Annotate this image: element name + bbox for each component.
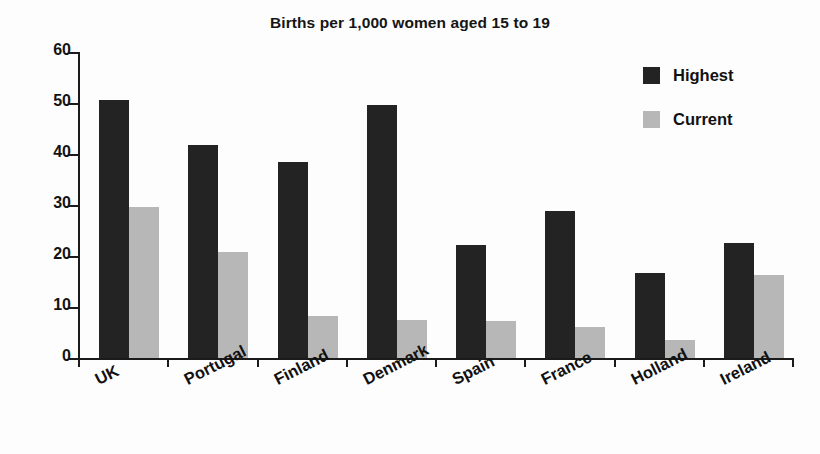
legend-label-highest: Highest xyxy=(673,66,734,85)
chart-page: Births per 1,000 women aged 15 to 19 010… xyxy=(0,0,820,454)
y-tick-label: 20 xyxy=(25,245,71,263)
x-label-uk: UK xyxy=(92,361,122,389)
x-tick-mark xyxy=(78,358,80,367)
y-tick-label: 50 xyxy=(25,92,71,110)
x-tick-mark xyxy=(792,358,794,367)
x-tick-mark xyxy=(524,358,526,367)
bar-portugal-current xyxy=(218,252,248,358)
y-axis-line xyxy=(78,52,80,358)
y-tick-label: 40 xyxy=(25,143,71,161)
x-tick-mark xyxy=(614,358,616,367)
bar-denmark-highest xyxy=(367,105,397,358)
legend-swatch-current-icon xyxy=(643,111,660,128)
x-tick-mark xyxy=(167,358,169,367)
x-tick-mark xyxy=(435,358,437,367)
bar-holland-highest xyxy=(635,273,665,358)
y-tick-label: 0 xyxy=(25,347,71,365)
chart-title: Births per 1,000 women aged 15 to 19 xyxy=(0,14,820,32)
x-tick-mark xyxy=(703,358,705,367)
bar-spain-current xyxy=(486,321,516,358)
y-tick-label: 10 xyxy=(25,296,71,314)
legend-swatch-highest-icon xyxy=(643,67,660,84)
bar-finland-highest xyxy=(278,162,308,358)
bar-uk-highest xyxy=(99,100,129,358)
bar-spain-highest xyxy=(456,245,486,358)
bar-ireland-highest xyxy=(724,243,754,358)
legend-item-highest: Highest xyxy=(643,66,734,85)
chart-legend: Highest Current xyxy=(643,66,734,154)
legend-label-current: Current xyxy=(673,110,733,129)
bar-france-highest xyxy=(545,211,575,358)
bar-uk-current xyxy=(129,207,159,358)
legend-item-current: Current xyxy=(643,110,734,129)
y-tick-label: 30 xyxy=(25,194,71,212)
bar-portugal-highest xyxy=(188,145,218,358)
x-tick-mark xyxy=(346,358,348,367)
bar-ireland-current xyxy=(754,275,784,358)
x-tick-mark xyxy=(257,358,259,367)
y-tick-label: 60 xyxy=(25,41,71,59)
